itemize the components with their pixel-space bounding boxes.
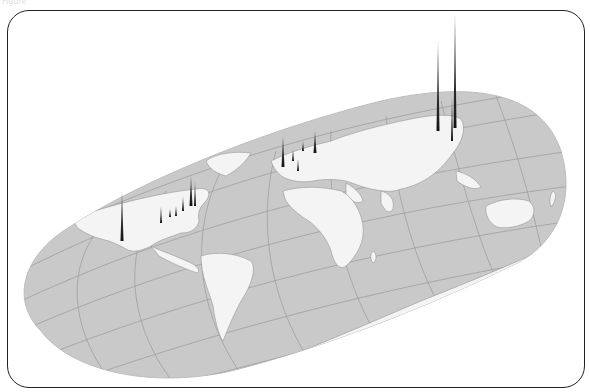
map-frame <box>7 10 585 388</box>
world-map[interactable] <box>8 11 585 388</box>
figure-caption: Figure <box>2 0 26 6</box>
